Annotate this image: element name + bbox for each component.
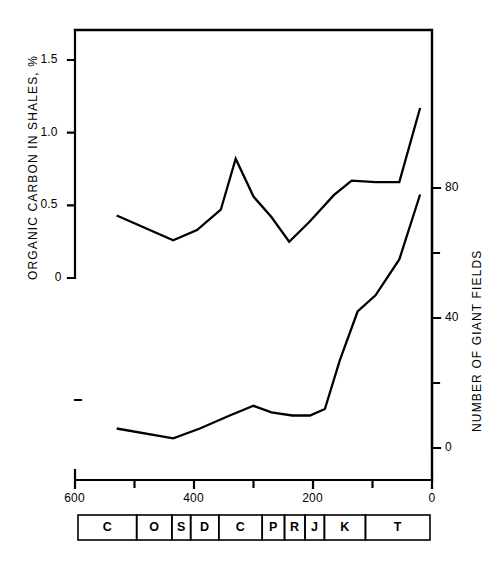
x-axis	[75, 400, 432, 488]
period-label: C	[219, 520, 262, 534]
plot-frame	[75, 30, 432, 480]
left-axis	[68, 30, 75, 278]
period-label: K	[324, 520, 365, 534]
period-label: J	[305, 520, 324, 534]
x-tick-label: 0	[428, 491, 435, 505]
period-label: T	[365, 520, 430, 534]
x-tick-label: 400	[183, 491, 204, 505]
left-tick-label: 1.0	[40, 125, 57, 139]
left-axis-title: ORGANIC CARBON IN SHALES, %	[26, 55, 40, 280]
period-label: O	[137, 520, 172, 534]
series-line-giant-fields	[117, 195, 420, 439]
left-tick-label: 0	[55, 270, 62, 284]
x-tick-label: 200	[302, 491, 323, 505]
x-tick-label: 600	[64, 491, 85, 505]
period-label: D	[191, 520, 219, 534]
period-label: C	[78, 520, 137, 534]
right-tick-label: 0	[445, 440, 452, 454]
series-line-organic-carbon	[117, 108, 420, 242]
chart-figure: ORGANIC CARBON IN SHALES, % NUMBER OF GI…	[0, 0, 497, 568]
period-label: P	[262, 520, 284, 534]
period-label: R	[285, 520, 306, 534]
left-tick-label: 0.5	[40, 197, 57, 211]
right-tick-label: 80	[445, 180, 459, 194]
left-tick-label: 1.5	[40, 52, 57, 66]
right-axis-title: NUMBER OF GIANT FIELDS	[470, 250, 484, 432]
right-tick-label: 40	[445, 310, 459, 324]
chart-canvas	[0, 0, 497, 568]
period-label: S	[172, 520, 191, 534]
